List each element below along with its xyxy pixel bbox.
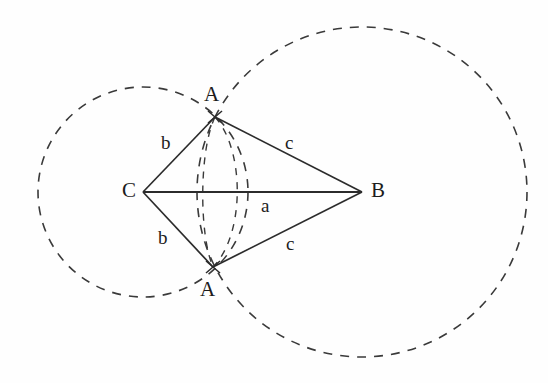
segment-a-top-to-b <box>215 117 362 192</box>
vertex-label-a-bottom: A <box>200 279 215 300</box>
segment-a-bottom-to-b <box>213 192 362 267</box>
side-label-b-lower: b <box>158 228 168 247</box>
side-label-c-lower: c <box>286 234 294 253</box>
geometry-canvas <box>0 0 548 383</box>
segment-c-to-a-top <box>143 117 215 192</box>
intersection-marker-a-top <box>208 111 222 123</box>
side-label-b-upper: b <box>161 133 171 152</box>
side-label-a: a <box>261 196 269 215</box>
geometry-figure: A A B C b c b c a <box>0 0 548 383</box>
side-label-c-upper: c <box>285 133 293 152</box>
vertex-label-c: C <box>122 180 136 201</box>
vertex-label-b: B <box>371 180 385 201</box>
vertex-label-a-top: A <box>204 84 219 105</box>
